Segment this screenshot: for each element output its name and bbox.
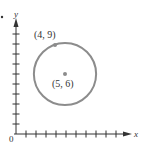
point-4-9 xyxy=(53,43,57,47)
point-label-5-6: (5, 6) xyxy=(52,78,74,90)
y-axis-arrow-icon xyxy=(14,18,19,27)
point-center-5-6 xyxy=(63,72,67,76)
bullet-marker xyxy=(1,16,3,18)
y-axis-label: y xyxy=(13,9,18,19)
x-axis-arrow-icon xyxy=(123,132,132,137)
origin-label: 0 xyxy=(9,134,14,144)
coordinate-plot: y x 0 (4, 9) (5, 6) xyxy=(0,0,142,153)
point-label-4-9: (4, 9) xyxy=(34,29,56,41)
x-axis-label: x xyxy=(133,129,138,139)
